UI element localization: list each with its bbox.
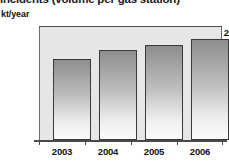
bar-2005[interactable] — [145, 45, 183, 140]
chart-plot: 2 1 2003 2004 2005 2006 — [0, 20, 229, 166]
x-axis-tick-2 — [131, 140, 132, 145]
x-axis-label-2005: 2005 — [131, 146, 177, 157]
bar-2003[interactable] — [53, 59, 91, 140]
y-axis-unit-label: kt/year — [1, 9, 29, 19]
x-axis-tick-1 — [85, 140, 86, 145]
x-axis-label-2003: 2003 — [39, 146, 85, 157]
bar-2006[interactable] — [191, 39, 229, 140]
x-axis-tick-3 — [177, 140, 178, 145]
x-axis-label-2006: 2006 — [177, 146, 223, 157]
chart-title: Incidents (volume per gas station) — [0, 0, 229, 5]
bars-container — [39, 27, 222, 140]
bar-2004[interactable] — [99, 50, 137, 140]
x-axis-tick-0 — [39, 140, 40, 145]
x-axis-tick-4 — [222, 140, 223, 145]
x-axis-label-2004: 2004 — [85, 146, 131, 157]
